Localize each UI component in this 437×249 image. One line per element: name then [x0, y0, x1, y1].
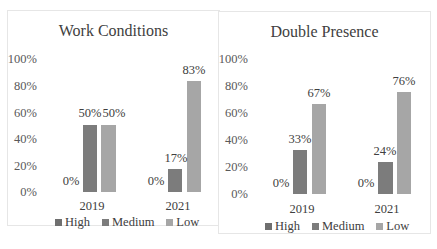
y-tick: 60% [3, 106, 37, 121]
y-tick: 0% [3, 185, 37, 200]
legend-item-medium: Medium [312, 219, 364, 234]
data-label: 76% [386, 74, 422, 89]
data-label: 83% [176, 63, 212, 78]
y-tick: 0% [214, 187, 248, 202]
square-icon [102, 219, 109, 226]
x-category: 2021 [362, 202, 412, 217]
data-label: 17% [158, 151, 194, 166]
y-tick: 20% [3, 159, 37, 174]
x-category: 2021 [153, 199, 203, 214]
chart-title: Double Presence [219, 23, 430, 41]
legend: High Medium Low [265, 219, 421, 234]
data-label: 0% [263, 176, 299, 191]
bar-2021-low [397, 92, 411, 194]
square-icon [55, 219, 62, 226]
data-label: 33% [282, 132, 318, 147]
data-label: 0% [53, 174, 89, 189]
square-icon [166, 219, 173, 226]
data-label: 0% [138, 174, 174, 189]
y-tick: 80% [3, 79, 37, 94]
square-icon [265, 223, 272, 230]
y-tick: 100% [3, 52, 37, 67]
data-label: 50% [96, 106, 132, 121]
y-tick: 40% [214, 133, 248, 148]
y-tick: 40% [3, 132, 37, 147]
y-tick: 100% [214, 52, 248, 67]
y-tick: 80% [214, 79, 248, 94]
legend-item-high: High [55, 215, 90, 230]
legend-item-medium: Medium [102, 215, 154, 230]
legend: High Medium Low [55, 215, 211, 230]
bar-2019-low [101, 125, 116, 192]
data-label: 24% [367, 144, 403, 159]
square-icon [312, 223, 319, 230]
bar-2021-low [187, 81, 201, 192]
x-category: 2019 [67, 199, 117, 214]
legend-item-high: High [265, 219, 300, 234]
chart-title: Work Conditions [8, 22, 219, 40]
square-icon [376, 223, 383, 230]
legend-item-low: Low [376, 219, 409, 234]
x-category: 2019 [277, 202, 327, 217]
data-label: 0% [348, 176, 384, 191]
y-tick: 60% [214, 106, 248, 121]
bar-2019-low [312, 104, 326, 194]
legend-item-low: Low [166, 215, 199, 230]
y-tick: 20% [214, 160, 248, 175]
data-label: 67% [301, 86, 337, 101]
